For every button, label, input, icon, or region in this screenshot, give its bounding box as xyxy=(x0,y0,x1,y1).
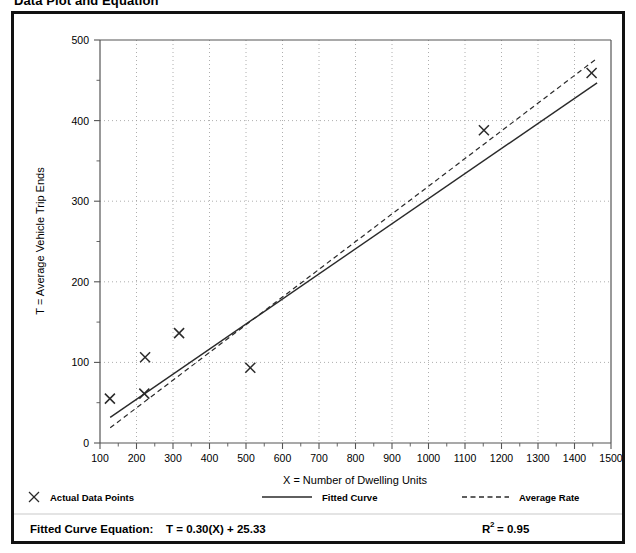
x-tick-1500: 1500 xyxy=(599,452,622,464)
x-axis-title: X = Number of Dwelling Units xyxy=(283,474,427,486)
x-tick-100: 100 xyxy=(91,452,109,464)
chart-frame: 0 100 200 300 400 500 xyxy=(11,11,625,544)
x-tick-200: 200 xyxy=(128,452,146,464)
x-tick-900: 900 xyxy=(383,452,401,464)
x-tick-500: 500 xyxy=(237,452,255,464)
x-tick-1200: 1200 xyxy=(490,452,514,464)
x-tick-1300: 1300 xyxy=(526,452,550,464)
r-squared-exponent: 2 xyxy=(490,520,495,529)
x-tick-1400: 1400 xyxy=(563,452,587,464)
x-tick-600: 600 xyxy=(274,452,292,464)
x-tick-300: 300 xyxy=(164,452,182,464)
y-tick-100: 100 xyxy=(71,356,89,368)
x-axis-tick-labels: 100 200 300 400 500 600 700 800 900 1000… xyxy=(91,452,622,464)
x-marker-icon xyxy=(29,492,39,502)
y-axis-title: T = Average Vehicle Trip Ends xyxy=(34,167,46,315)
x-tick-400: 400 xyxy=(201,452,219,464)
y-tick-500: 500 xyxy=(71,34,89,46)
x-tick-800: 800 xyxy=(347,452,365,464)
x-tick-1100: 1100 xyxy=(454,452,477,464)
legend-label-average-rate: Average Rate xyxy=(519,492,579,503)
x-tick-700: 700 xyxy=(310,452,328,464)
y-tick-200: 200 xyxy=(71,276,89,288)
equation-prefix: Fitted Curve Equation: xyxy=(30,523,153,535)
chart-figure: 0 100 200 300 400 500 xyxy=(14,14,622,541)
x-axis-ticks xyxy=(100,443,611,449)
legend-label-fitted-curve: Fitted Curve xyxy=(322,492,377,503)
equation-row: Fitted Curve Equation: T = 0.30(X) + 25.… xyxy=(30,520,530,535)
y-tick-0: 0 xyxy=(83,437,89,449)
y-tick-300: 300 xyxy=(71,195,89,207)
chart-legend: Actual Data Points Fitted Curve Average … xyxy=(29,492,579,503)
x-tick-1000: 1000 xyxy=(417,452,441,464)
page-title: Data Plot and Equation xyxy=(14,0,158,8)
y-axis-tick-labels: 0 100 200 300 400 500 xyxy=(71,34,89,449)
equation-formula: T = 0.30(X) + 25.33 xyxy=(166,523,266,535)
y-axis-ticks xyxy=(94,40,100,443)
y-tick-400: 400 xyxy=(71,115,89,127)
legend-label-data-points: Actual Data Points xyxy=(50,492,134,503)
r-squared-value: = 0.95 xyxy=(497,523,530,535)
